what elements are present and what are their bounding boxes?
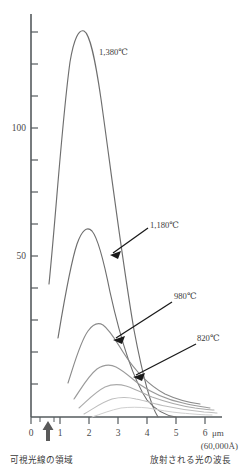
y-axis-ticks <box>31 32 38 384</box>
x-axis-ticks <box>31 417 205 424</box>
annotation-arrow-1180c <box>110 228 148 259</box>
curve-7 <box>92 407 212 417</box>
curve-980c <box>68 324 200 404</box>
y-tick-label-100: 100 <box>12 123 27 133</box>
chart-svg: 100 50 0 1 2 3 4 5 6 μm (60,000Å) <box>0 0 245 474</box>
annotation-arrow-820c <box>133 344 196 381</box>
annotation-label-1180c: 1,180℃ <box>150 220 179 230</box>
annotation-label-1380c: 1,380℃ <box>99 47 128 57</box>
visible-light-marker-arrow <box>43 421 54 441</box>
blackbody-radiation-chart: 100 50 0 1 2 3 4 5 6 μm (60,000Å) <box>0 0 245 474</box>
annotation-label-820c: 820℃ <box>197 333 220 343</box>
curve-1380c <box>49 31 158 417</box>
visible-light-region-caption: 可視光線の領域 <box>10 454 73 465</box>
x-tick-label-6: 6 <box>203 428 208 438</box>
x-axis-unit-secondary-label: (60,000Å) <box>201 441 238 451</box>
x-tick-label-3: 3 <box>116 428 121 438</box>
x-tick-label-0: 0 <box>29 428 34 438</box>
x-axis-unit-label: μm <box>212 428 224 438</box>
y-tick-label-50: 50 <box>17 251 27 261</box>
annotation-label-980c: 980℃ <box>174 291 197 301</box>
x-tick-label-2: 2 <box>87 428 92 438</box>
x-tick-label-1: 1 <box>58 428 63 438</box>
x-tick-label-4: 4 <box>145 428 150 438</box>
x-tick-label-5: 5 <box>174 428 179 438</box>
wavelength-caption: 放射される光の波長 <box>150 454 231 465</box>
annotation-arrow-980c <box>113 302 172 344</box>
curves-group <box>49 31 217 417</box>
